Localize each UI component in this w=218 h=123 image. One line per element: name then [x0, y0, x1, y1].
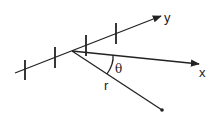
angle-arc [107, 55, 113, 74]
point-dot [160, 108, 164, 112]
x-axis-line [72, 51, 199, 64]
y-axis-label: y [164, 10, 171, 25]
radius-line [72, 51, 162, 110]
coordinate-diagram: y x r θ [0, 0, 218, 123]
y-axis-line [15, 16, 161, 73]
radius-label: r [104, 78, 109, 93]
angle-label: θ [115, 62, 122, 76]
x-axis-label: x [199, 65, 206, 80]
